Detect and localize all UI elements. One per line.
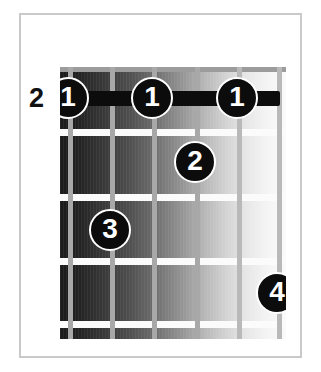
fretboard: 111234 [60,67,286,339]
finger-marker-label: 1 [144,83,160,111]
finger-marker-label: 3 [102,215,118,243]
finger-marker-3-string-2: 3 [89,209,131,251]
fret-line-4 [60,321,286,328]
finger-marker-1-string-3: 1 [131,77,173,119]
starting-fret-number: 2 [29,85,44,112]
string-4 [195,67,200,339]
fret-line-0 [60,67,286,72]
fret-line-3 [60,258,286,265]
finger-marker-label: 2 [187,147,203,175]
finger-marker-label: 1 [229,83,245,111]
fret-line-2 [60,194,286,201]
finger-marker-1-string-5: 1 [216,77,258,119]
string-2 [110,67,115,339]
finger-marker-label: 4 [269,278,285,306]
chord-diagram: 2 111234 [0,0,321,372]
fret-line-1 [60,129,286,136]
finger-marker-label: 1 [60,83,76,111]
finger-marker-2-string-4: 2 [174,141,216,183]
